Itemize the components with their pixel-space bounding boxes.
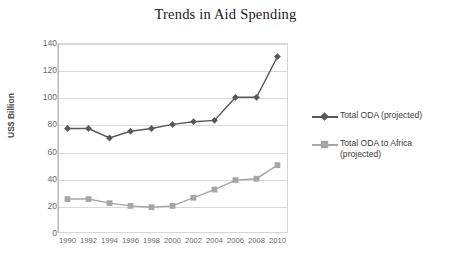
x-tick-1996: 1996 (122, 236, 139, 245)
chart-title: Trends in Aid Spending (0, 6, 451, 23)
chart-container: Trends in Aid Spending US$ Billion 02040… (0, 0, 451, 262)
y-tick-80: 80 (17, 119, 57, 129)
data-point[interactable] (190, 118, 197, 125)
data-point[interactable] (86, 196, 92, 202)
data-point[interactable] (274, 53, 281, 60)
legend-label-total-oda: Total ODA (projected) (338, 110, 422, 121)
y-tick-140: 140 (17, 38, 57, 48)
y-tick-0: 0 (17, 228, 57, 238)
y-tick-40: 40 (17, 174, 57, 184)
data-point[interactable] (85, 125, 92, 132)
data-point[interactable] (107, 200, 113, 206)
data-point[interactable] (106, 135, 113, 142)
data-point[interactable] (212, 187, 218, 193)
x-tick-2004: 2004 (206, 236, 223, 245)
data-point[interactable] (64, 125, 71, 132)
x-tick-2006: 2006 (227, 236, 244, 245)
data-point[interactable] (128, 203, 134, 209)
square-marker-icon (312, 139, 338, 150)
y-tick-20: 20 (17, 201, 57, 211)
chart-legend: Total ODA (projected) Total ODA to Afric… (312, 110, 448, 175)
data-point[interactable] (149, 204, 155, 210)
x-tick-1992: 1992 (80, 236, 97, 245)
data-point[interactable] (253, 94, 260, 101)
data-point[interactable] (65, 196, 71, 202)
legend-item-total-oda-africa[interactable]: Total ODA to Africa (projected) (312, 138, 448, 159)
data-series-layer (57, 43, 288, 233)
x-tick-1990: 1990 (59, 236, 76, 245)
x-tick-2010: 2010 (269, 236, 286, 245)
y-axis-title: US$ Billion (6, 93, 16, 138)
y-tick-120: 120 (17, 65, 57, 75)
series-line-1 (68, 165, 278, 207)
data-point[interactable] (275, 162, 281, 168)
x-tick-2008: 2008 (248, 236, 265, 245)
x-tick-1994: 1994 (101, 236, 118, 245)
data-point[interactable] (148, 125, 155, 132)
legend-item-total-oda[interactable]: Total ODA (projected) (312, 110, 448, 122)
data-point[interactable] (191, 195, 197, 201)
data-point[interactable] (233, 177, 239, 183)
data-point[interactable] (254, 176, 260, 182)
diamond-marker-icon (312, 111, 338, 122)
data-point[interactable] (127, 128, 134, 135)
legend-label-total-oda-africa: Total ODA to Africa (projected) (338, 138, 448, 159)
y-tick-60: 60 (17, 147, 57, 157)
y-tick-100: 100 (17, 92, 57, 102)
data-point[interactable] (169, 121, 176, 128)
data-point[interactable] (170, 203, 176, 209)
x-tick-1998: 1998 (143, 236, 160, 245)
x-tick-2002: 2002 (185, 236, 202, 245)
x-tick-2000: 2000 (164, 236, 181, 245)
